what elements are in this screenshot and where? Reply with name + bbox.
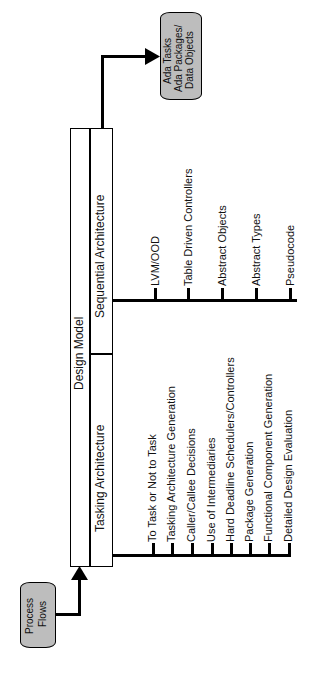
arrow-right-icon <box>145 48 160 65</box>
arrow-up-icon <box>71 566 88 580</box>
sequential-tick <box>187 288 190 300</box>
tasking-item: Detailed Design Evaluation <box>282 410 295 542</box>
sequential-item: Abstract Objects <box>216 205 229 286</box>
tasking-branch-line <box>113 554 291 557</box>
design-model-column-divider <box>89 128 91 567</box>
sequential-item: LVM/OOD <box>149 236 162 286</box>
sequential-item: Table Driven Controllers <box>182 169 195 286</box>
tasking-item: Caller/Callee Decisions <box>185 428 198 542</box>
sequential-tick <box>154 288 157 300</box>
tasking-item: Functional Component Generation <box>262 374 275 542</box>
process-flows-label-line2: Flows <box>37 601 49 627</box>
tasking-item: Hard Deadline Schedulers/Controllers <box>224 357 237 542</box>
sequential-branch-line <box>113 299 297 302</box>
tasking-item: Tasking Architecture Generation <box>165 386 178 542</box>
tasking-item: To Task or Not to Task <box>146 434 159 542</box>
input-connector-vertical <box>78 578 81 616</box>
sequential-tick <box>289 288 292 300</box>
tasking-tick <box>152 543 155 555</box>
section-divider <box>89 353 113 355</box>
design-model-title: Design Model <box>73 317 86 390</box>
sequential-tick <box>221 288 224 300</box>
tasking-item: Use of Intermediaries <box>205 437 218 542</box>
tasking-tick <box>268 543 271 555</box>
output-connector-vertical <box>101 55 104 128</box>
tasking-tick <box>171 543 174 555</box>
tasking-architecture-title: Tasking Architecture <box>94 425 107 532</box>
sequential-tick <box>255 288 258 300</box>
process-flows-label-line1: Process <box>24 598 36 634</box>
tasking-tick <box>230 543 233 555</box>
tasking-tick <box>249 543 252 555</box>
tasking-tick <box>191 543 194 555</box>
tasking-item: Package Generation <box>243 442 256 542</box>
tasking-tick <box>211 543 214 555</box>
output-connector-horizontal <box>101 55 147 58</box>
sequential-item: Pseudocode <box>284 225 297 286</box>
tasking-tick <box>288 543 291 555</box>
sequential-architecture-title: Sequential Architecture <box>94 195 107 318</box>
sequential-item: Abstract Types <box>250 213 263 286</box>
ada-label-line3: Data Objects <box>184 31 196 89</box>
